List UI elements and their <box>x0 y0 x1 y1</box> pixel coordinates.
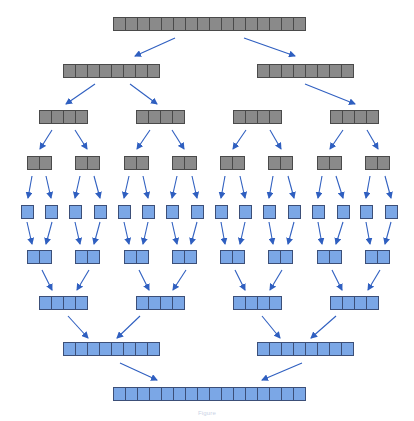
array-cell <box>282 343 294 356</box>
array-cell <box>367 297 379 310</box>
array-cell <box>126 18 138 31</box>
array-cell <box>88 343 100 356</box>
merge-array-level-4 <box>143 206 155 219</box>
array-cell <box>367 111 379 124</box>
arrow-icon <box>172 222 177 244</box>
array-cell <box>148 65 160 78</box>
array-cell <box>186 388 198 401</box>
array-cell <box>119 206 131 219</box>
split-array-level-1 <box>258 65 354 78</box>
array-cell <box>270 18 282 31</box>
arrow-icon <box>75 176 80 198</box>
array-cell <box>143 206 155 219</box>
arrow-icon <box>94 176 100 198</box>
arrow-icon <box>139 270 149 290</box>
merge-array-level-4 <box>119 206 131 219</box>
array-cell <box>150 388 162 401</box>
split-array-level-3 <box>173 157 197 170</box>
arrow-icon <box>46 176 51 198</box>
merge-array-level-4 <box>289 206 301 219</box>
array-cell <box>114 18 126 31</box>
merge-array-level-5 <box>173 251 197 264</box>
split-array-level-3 <box>125 157 149 170</box>
array-cell <box>64 343 76 356</box>
merge-array-level-5 <box>318 251 342 264</box>
array-cell <box>167 206 179 219</box>
array-cell <box>76 157 88 170</box>
array-cell <box>149 297 161 310</box>
merge-array-level-4 <box>70 206 82 219</box>
array-cell <box>258 18 270 31</box>
split-array-level-3 <box>28 157 52 170</box>
merge-array-level-4 <box>167 206 179 219</box>
array-cell <box>233 251 245 264</box>
array-cell <box>76 297 88 310</box>
merge-array-level-7 <box>64 343 160 356</box>
array-cell <box>386 206 398 219</box>
merge-array-level-4 <box>338 206 350 219</box>
arrow-icon <box>318 222 322 244</box>
array-cell <box>234 18 246 31</box>
array-cell <box>100 343 112 356</box>
array-cell <box>22 206 34 219</box>
merge-sort-diagram: Figure <box>0 0 414 421</box>
array-cell <box>76 65 88 78</box>
merge-array-level-4 <box>192 206 204 219</box>
array-cell <box>378 251 390 264</box>
merge-array-level-6 <box>234 297 282 310</box>
array-cell <box>162 18 174 31</box>
arrow-icon <box>288 176 294 198</box>
array-cell <box>161 297 173 310</box>
array-cell <box>306 65 318 78</box>
split-array-level-3 <box>318 157 342 170</box>
array-cell <box>64 111 76 124</box>
array-cell <box>149 111 161 124</box>
arrow-icon <box>366 176 370 198</box>
array-cell <box>246 388 258 401</box>
array-cell <box>185 251 197 264</box>
array-cell <box>126 388 138 401</box>
array-cell <box>294 388 306 401</box>
array-cell <box>330 343 342 356</box>
arrow-icon <box>75 222 80 244</box>
array-cell <box>378 157 390 170</box>
array-cell <box>112 65 124 78</box>
array-cell <box>258 297 270 310</box>
array-cell <box>88 65 100 78</box>
arrow-icon <box>221 222 225 244</box>
array-cell <box>234 297 246 310</box>
split-array-level-3 <box>221 157 245 170</box>
arrow-icon <box>135 38 175 56</box>
array-cell <box>114 388 126 401</box>
array-cell <box>112 343 124 356</box>
split-array-level-3 <box>269 157 293 170</box>
arrow-icon <box>75 130 87 149</box>
arrow-icon <box>221 176 225 198</box>
merge-array-level-4 <box>386 206 398 219</box>
array-cell <box>355 111 367 124</box>
merge-array-level-8 <box>114 388 306 401</box>
array-cell <box>136 65 148 78</box>
figure-caption: Figure <box>0 410 414 416</box>
array-cell <box>233 157 245 170</box>
array-cell <box>331 297 343 310</box>
arrow-icon <box>77 270 89 290</box>
array-cell <box>270 297 282 310</box>
merge-array-level-4 <box>22 206 34 219</box>
arrow-icon <box>262 363 302 380</box>
array-cell <box>76 343 88 356</box>
merge-array-level-5 <box>269 251 293 264</box>
array-cell <box>137 297 149 310</box>
array-cell <box>330 65 342 78</box>
array-cell <box>100 65 112 78</box>
split-array-level-2 <box>137 111 185 124</box>
arrow-icon <box>305 84 355 104</box>
merge-sort-tree-graphic <box>0 0 414 421</box>
arrow-icon <box>143 176 148 198</box>
array-cell <box>52 111 64 124</box>
array-cell <box>366 251 378 264</box>
array-cell <box>222 388 234 401</box>
array-cell <box>342 65 354 78</box>
array-cell <box>28 157 40 170</box>
arrow-icon <box>269 222 273 244</box>
